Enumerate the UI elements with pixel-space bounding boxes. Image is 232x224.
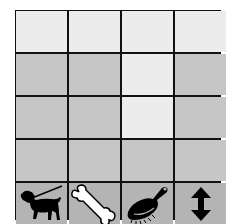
cell-r1-c3[interactable] [122,11,173,52]
give-bone-button[interactable] [69,183,120,224]
move-button[interactable] [175,183,226,224]
game-board [15,10,221,220]
cell-r1-c4[interactable] [175,11,226,52]
cell-r3-c1[interactable] [16,97,67,138]
cell-r4-c1[interactable] [16,140,67,181]
cell-r4-c3[interactable] [122,140,173,181]
dog-on-leash-icon [18,184,66,224]
walk-dog-button[interactable] [16,183,67,224]
cell-r3-c3[interactable] [122,97,173,138]
cell-r3-c4[interactable] [175,97,226,138]
bone-icon [71,184,119,224]
cell-r2-c2[interactable] [69,54,120,95]
cell-r2-c4[interactable] [175,54,226,95]
cell-r2-c1[interactable] [16,54,67,95]
brush-icon [124,184,172,224]
cell-r4-c4[interactable] [175,140,226,181]
cell-r2-c3[interactable] [122,54,173,95]
brush-dog-button[interactable] [122,183,173,224]
up-down-arrow-icon [189,186,213,222]
cell-r1-c1[interactable] [16,11,67,52]
cell-r1-c2[interactable] [69,11,120,52]
cell-r4-c2[interactable] [69,140,120,181]
cell-r3-c2[interactable] [69,97,120,138]
